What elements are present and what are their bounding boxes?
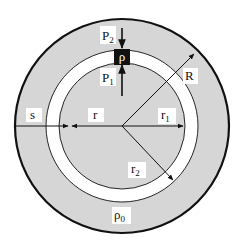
- R-label: R: [185, 68, 194, 83]
- s-label: s: [30, 107, 35, 122]
- rho-label: ρ: [119, 49, 126, 64]
- r-label: r: [93, 107, 98, 122]
- shell-diagram: ρ P2 P1 R s r r1 r2 ρ0: [0, 0, 241, 247]
